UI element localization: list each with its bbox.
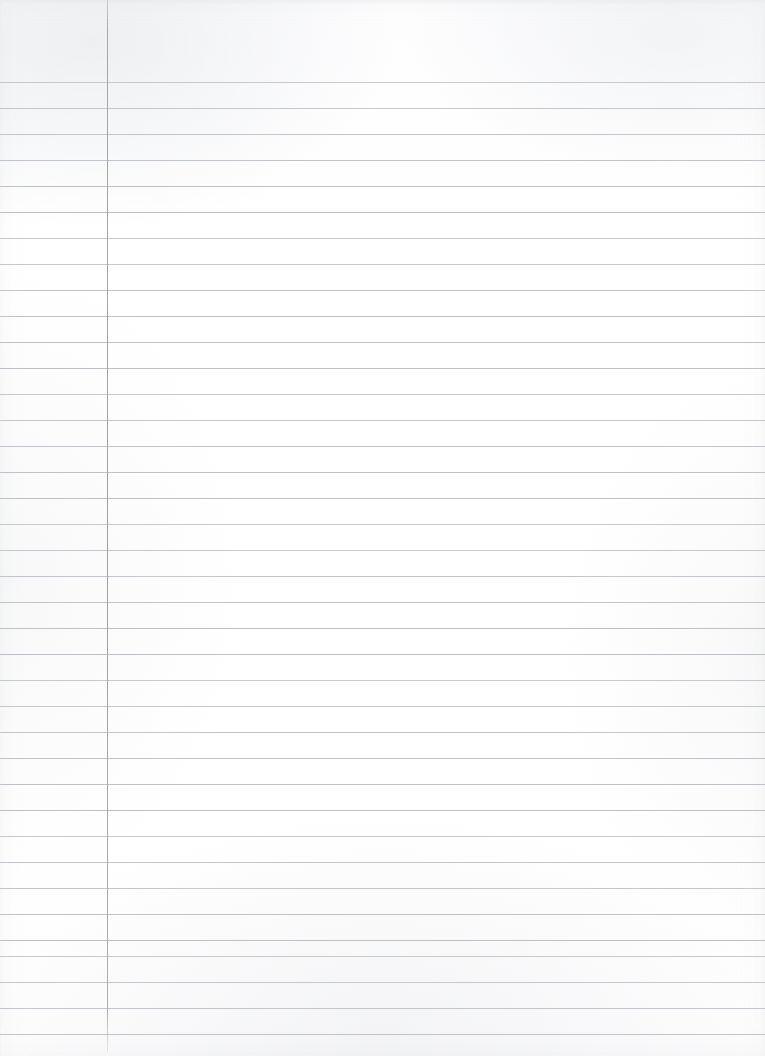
lined-paper-page <box>0 0 765 1056</box>
writing-area[interactable] <box>108 0 765 1056</box>
